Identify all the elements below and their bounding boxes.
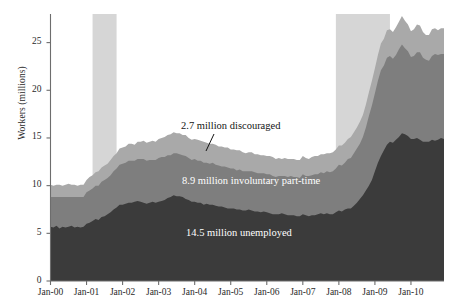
annotation-unemployed: 14.5 million unemployed (186, 227, 292, 238)
y-tick-label: 20 (18, 84, 42, 94)
chart-plot-area (0, 0, 451, 306)
y-axis-title: Workers (millions) (17, 43, 27, 163)
annotation-involuntary-part-time: 8.9 million involuntary part-time (182, 175, 320, 186)
y-tick-label: 5 (18, 227, 42, 237)
x-tick-label: Jan-10 (388, 287, 434, 297)
y-tick-label: 0 (18, 275, 42, 285)
y-tick-label: 10 (18, 179, 42, 189)
y-tick-label: 25 (18, 36, 42, 46)
stacked-area-chart: Workers (millions) 0510152025 Jan-00Jan-… (0, 0, 451, 306)
annotation-discouraged: 2.7 million discouraged (181, 120, 280, 131)
y-tick-label: 15 (18, 131, 42, 141)
